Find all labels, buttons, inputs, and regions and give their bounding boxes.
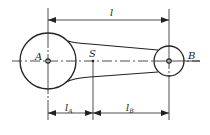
label-lA: lA xyxy=(65,102,73,114)
rod-body xyxy=(66,41,158,82)
label-A: A xyxy=(34,51,42,62)
label-B: B xyxy=(187,50,195,61)
label-l: l xyxy=(110,7,113,18)
connecting-rod-diagram: l A S B lA lB xyxy=(0,0,210,135)
label-S: S xyxy=(89,48,96,59)
center-of-mass-S-icon xyxy=(92,60,95,63)
label-lB: lB xyxy=(126,102,134,114)
